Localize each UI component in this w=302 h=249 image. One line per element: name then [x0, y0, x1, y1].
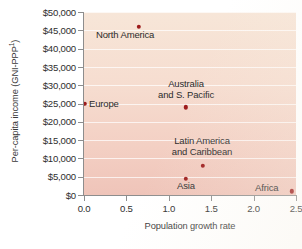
data-point-europe[interactable] — [84, 101, 87, 105]
y-tick-label-10000: $10,000 — [43, 153, 76, 164]
x-axis-title: Population growth rate — [84, 221, 296, 231]
y-tick-35000 — [78, 67, 84, 68]
y-tick-label-35000: $35,000 — [43, 62, 76, 73]
point-label-australia-line2: and S. Pacific — [158, 89, 214, 100]
x-tick-label-0.5: 0.5 — [106, 203, 146, 214]
y-tick-20000 — [78, 122, 84, 123]
data-point-latin-america-caribbean[interactable] — [200, 163, 204, 167]
x-tick-1.5 — [211, 196, 212, 201]
gridline-20000 — [84, 122, 296, 123]
y-tick-40000 — [78, 49, 84, 50]
point-label-europe: Europe — [89, 98, 119, 109]
x-tick-label-0.0: 0.0 — [64, 203, 104, 214]
y-axis-title: Per-capita income (GNI-PPP1) — [8, 16, 20, 186]
scatter-chart: Per-capita income (GNI-PPP1) $50,000 $45… — [0, 0, 302, 249]
x-tick-label-2.0: 2.0 — [234, 203, 274, 214]
x-tick-2.0 — [254, 196, 255, 201]
data-point-africa[interactable] — [289, 189, 293, 193]
gridline-35000 — [84, 67, 296, 68]
point-label-africa: Africa — [255, 182, 278, 193]
y-tick-label-5000: $5,000 — [48, 171, 76, 182]
y-tick-label-15000: $15,000 — [43, 135, 76, 146]
x-tick-2.5 — [296, 196, 297, 201]
point-label-latin-america-caribbean: Latin Americaand Caribbean — [158, 135, 246, 157]
y-axis-title-main: Per-capita income (GNI-PPP — [10, 46, 20, 162]
y-axis-title-tail: ) — [10, 40, 20, 43]
x-tick-0.5 — [126, 196, 127, 201]
point-label-asia: Asia — [166, 180, 206, 191]
gridline-10000 — [84, 158, 296, 159]
point-label-australia-line1: Australia — [168, 78, 204, 89]
y-tick-label-30000: $30,000 — [43, 80, 76, 91]
y-tick-label-45000: $45,000 — [43, 25, 76, 36]
y-tick-50000 — [78, 12, 84, 13]
y-tick-10000 — [78, 158, 84, 159]
gridline-40000 — [84, 49, 296, 50]
x-axis-line — [83, 195, 297, 196]
x-tick-0.0 — [84, 196, 85, 201]
point-label-latin-line1: Latin America — [174, 135, 230, 146]
y-tick-15000 — [78, 140, 84, 141]
data-point-australia-s-pacific[interactable] — [184, 105, 188, 109]
y-tick-label-25000: $25,000 — [43, 98, 76, 109]
point-label-australia-s-pacific: Australiaand S. Pacific — [142, 78, 230, 100]
y-tick-label-0: $0 — [66, 190, 76, 201]
y-tick-5000 — [78, 177, 84, 178]
y-tick-45000 — [78, 30, 84, 31]
y-tick-30000 — [78, 85, 84, 86]
y-axis-title-footnote-marker: 1 — [8, 43, 15, 47]
y-tick-label-20000: $20,000 — [43, 116, 76, 127]
y-tick-label-50000: $50,000 — [43, 7, 76, 18]
gridline-50000 — [84, 12, 296, 13]
y-tick-25000 — [78, 104, 84, 105]
x-tick-1.0 — [169, 196, 170, 201]
x-tick-label-1.0: 1.0 — [149, 203, 189, 214]
gridline-5000 — [84, 177, 296, 178]
x-tick-label-2.5: 2.5 — [276, 203, 302, 214]
point-label-latin-line2: and Caribbean — [172, 146, 232, 157]
point-label-north-america: North America — [96, 29, 154, 40]
x-tick-label-1.5: 1.5 — [191, 203, 231, 214]
y-tick-label-40000: $40,000 — [43, 43, 76, 54]
